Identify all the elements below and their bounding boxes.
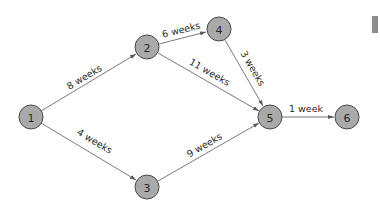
edge-label-2-4: 6 weeks: [161, 20, 202, 40]
node-3: 3: [135, 175, 159, 199]
node-label-2: 2: [144, 42, 151, 55]
node-1: 1: [19, 105, 43, 129]
edge-1-2: [41, 54, 136, 111]
node-label-6: 6: [344, 112, 351, 125]
edge-label-1-3: 4 weeks: [75, 126, 114, 156]
node-2: 2: [135, 35, 159, 59]
node-label-3: 3: [144, 182, 151, 195]
network-diagram: 8 weeks 4 weeks 6 weeks 11 weeks 3 weeks…: [0, 0, 380, 211]
node-label-4: 4: [216, 24, 223, 37]
edge-label-4-5: 3 weeks: [239, 49, 268, 88]
node-6: 6: [335, 105, 359, 129]
node-4: 4: [207, 17, 231, 41]
edge-3-5: [158, 123, 259, 181]
node-label-5: 5: [267, 112, 274, 125]
edge-label-3-5: 9 weeks: [185, 130, 224, 159]
edge-labels: 8 weeks 4 weeks 6 weeks 11 weeks 3 weeks…: [65, 20, 324, 160]
corner-mark: [372, 16, 378, 33]
node-label-1: 1: [28, 112, 35, 125]
edge-label-5-6: 1 week: [289, 103, 324, 114]
node-5: 5: [258, 105, 282, 129]
